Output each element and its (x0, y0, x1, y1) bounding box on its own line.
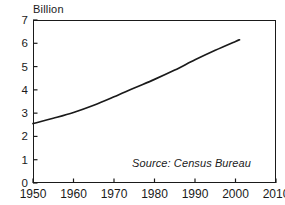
y-axis-tick-marks (33, 20, 38, 183)
chart-figure: Billion 01234567 19501960197019801990200… (0, 0, 285, 205)
y-tick-label: 1 (4, 154, 28, 166)
y-tick-label: 5 (4, 61, 28, 73)
y-tick-label: 4 (4, 84, 28, 96)
chart-canvas (0, 0, 285, 205)
y-tick-label: 3 (4, 107, 28, 119)
y-tick-label: 6 (4, 37, 28, 49)
y-tick-label: 7 (4, 14, 28, 26)
x-tick-label: 2010 (254, 187, 285, 201)
x-tick-label: 1970 (92, 187, 136, 201)
x-tick-label: 2000 (214, 187, 258, 201)
x-tick-label: 1980 (133, 187, 177, 201)
x-tick-label: 1990 (173, 187, 217, 201)
source-annotation: Source: Census Bureau (132, 157, 251, 169)
x-tick-label: 1950 (11, 187, 55, 201)
y-tick-label: 2 (4, 130, 28, 142)
x-tick-label: 1960 (52, 187, 96, 201)
data-line-world-population (33, 40, 240, 124)
x-axis-tick-marks (33, 179, 276, 184)
